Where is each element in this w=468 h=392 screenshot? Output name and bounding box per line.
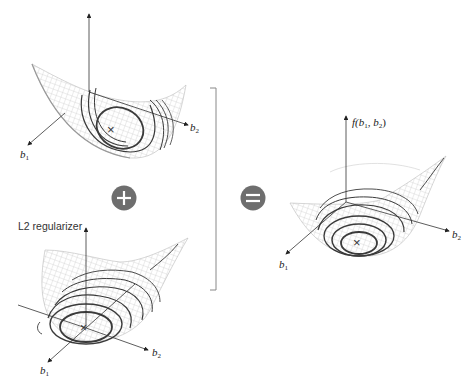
sum-b1-label: b1 <box>279 258 289 272</box>
loss-minimum-marker: × <box>107 122 115 137</box>
l2-minimum-marker: × <box>80 321 87 335</box>
loss-b1-label: b1 <box>20 148 30 162</box>
sum-surface-panel: × f(b1, b2) b1 b2 <box>279 116 462 272</box>
loss-surface-panel: × b1 b2 <box>20 14 200 162</box>
loss-b2-label: b2 <box>190 121 200 135</box>
plus-operator <box>112 186 137 211</box>
sum-b2-label: b2 <box>452 228 462 242</box>
sum-surface-mesh <box>290 156 446 256</box>
l2-b1-label: b1 <box>40 364 50 378</box>
l2-surface-mesh <box>42 238 188 341</box>
sum-minimum-marker: × <box>353 235 361 250</box>
regularization-diagram: × b1 b2 L2 regularizer <box>0 0 468 392</box>
l2-title: L2 regularizer <box>18 220 83 232</box>
equals-circle <box>241 186 266 211</box>
grouping-bracket <box>210 88 216 290</box>
equals-operator <box>241 186 266 211</box>
l2-surface-panel: L2 regularizer × b1 b2 <box>18 220 188 378</box>
l2-b2-label: b2 <box>152 346 162 360</box>
sum-function-label: f(b1, b2) <box>352 116 386 130</box>
b1-axis <box>28 113 65 145</box>
